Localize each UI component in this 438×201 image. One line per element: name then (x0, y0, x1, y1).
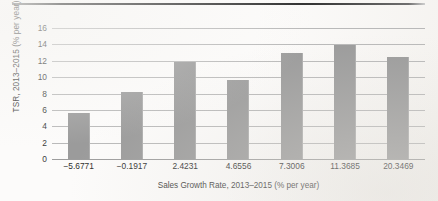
bar-slot (265, 28, 318, 159)
bar-slot (318, 28, 371, 159)
bar[interactable] (334, 45, 356, 159)
bar[interactable] (387, 57, 409, 159)
bar-slot (159, 28, 212, 159)
x-axis-title: Sales Growth Rate, 2013–2015 (% per year… (52, 181, 425, 190)
y-axis-tick-label: 2 (42, 138, 47, 148)
bar-slot (372, 28, 425, 159)
x-axis-baseline: 0 (52, 159, 425, 160)
plot-area: 1614121086420 (52, 28, 425, 159)
bar[interactable] (121, 92, 143, 159)
bar-slot (105, 28, 158, 159)
bar[interactable] (174, 62, 196, 159)
y-axis-tick-label: 4 (42, 121, 47, 131)
x-axis-tick-label: −0.1917 (105, 161, 158, 171)
x-axis-tick-label: 20.3469 (372, 161, 425, 171)
y-axis-tick-label: 6 (42, 105, 47, 115)
x-axis-tick-label: 2.4231 (159, 161, 212, 171)
bar-slot (52, 28, 105, 159)
x-axis-tick-label: 7.3006 (265, 161, 318, 171)
y-axis-tick-label: 16 (38, 23, 47, 33)
y-axis-tick-label: 12 (38, 56, 47, 66)
bar[interactable] (227, 80, 249, 159)
x-axis-tick-label: 4.6556 (212, 161, 265, 171)
bar[interactable] (281, 53, 303, 159)
y-axis-tick-label: 14 (38, 39, 47, 49)
y-axis-tick-label: 10 (38, 72, 47, 82)
bar[interactable] (68, 113, 90, 159)
x-axis-tick-label: 11.3685 (318, 161, 371, 171)
y-axis-tick-label: 8 (42, 89, 47, 99)
bar-series (52, 28, 425, 159)
y-axis-title: TSR, 2013–2015 (% per year) (12, 0, 21, 127)
bar-chart: TSR, 2013–2015 (% per year) 161412108642… (0, 0, 438, 201)
x-axis-tick-label: −5.6771 (52, 161, 105, 171)
bar-slot (212, 28, 265, 159)
y-axis-tick-label: 0 (42, 154, 47, 164)
page-background: TSR, 2013–2015 (% per year) 161412108642… (0, 0, 438, 201)
x-axis-tick-labels: −5.6771−0.19172.42314.65567.300611.36852… (52, 161, 425, 171)
